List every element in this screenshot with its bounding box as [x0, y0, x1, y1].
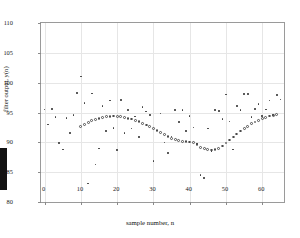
x-tick-label: 0: [42, 185, 45, 192]
gridline-horizontal: [41, 113, 284, 114]
data-point-circle: [196, 143, 199, 146]
data-point-dot: [280, 99, 282, 101]
data-point-dot: [265, 109, 267, 111]
data-point-dot: [222, 118, 224, 120]
x-tick: [153, 202, 154, 205]
data-point-circle: [192, 141, 195, 144]
data-point-dot: [102, 105, 104, 107]
y-tick: [38, 23, 41, 24]
x-tick: [117, 202, 118, 205]
y-tick-label: 80: [7, 198, 13, 205]
data-point-circle: [246, 125, 249, 128]
data-point-circle: [123, 116, 126, 119]
data-point-circle: [250, 122, 253, 125]
data-point-circle: [94, 118, 97, 121]
x-tick: [190, 202, 191, 205]
data-point-circle: [112, 115, 115, 118]
data-point-dot: [131, 128, 133, 130]
x-tick: [262, 202, 263, 205]
data-point-dot: [76, 92, 78, 94]
data-point-circle: [268, 115, 271, 118]
data-point-circle: [217, 147, 220, 150]
data-point-dot: [58, 142, 60, 144]
data-point-circle: [98, 117, 101, 120]
data-point-circle: [239, 130, 242, 133]
data-point-dot: [182, 109, 184, 111]
data-point-dot: [62, 149, 64, 151]
gridline-vertical: [262, 23, 263, 202]
x-axis-title: sample number, n: [0, 219, 300, 226]
data-point-circle: [156, 129, 159, 132]
x-tick-label: 10: [77, 185, 83, 192]
data-point-dot: [229, 121, 231, 123]
data-point-dot: [236, 105, 238, 107]
data-point-circle: [152, 127, 155, 130]
y-tick: [38, 142, 41, 143]
data-point-dot: [193, 127, 195, 129]
data-point-circle: [134, 119, 137, 122]
data-point-dot: [109, 100, 111, 102]
y-tick: [38, 202, 41, 203]
data-point-dot: [167, 152, 169, 154]
data-point-circle: [261, 117, 264, 120]
data-point-circle: [170, 137, 173, 140]
data-point-dot: [69, 132, 71, 134]
data-point-circle: [228, 139, 231, 142]
data-point-circle: [90, 119, 93, 122]
data-point-circle: [138, 120, 141, 123]
data-point-circle: [79, 125, 82, 128]
gridline-horizontal: [41, 53, 284, 54]
data-point-dot: [47, 124, 49, 126]
x-tick-label: 50: [222, 185, 228, 192]
data-point-circle: [127, 117, 130, 120]
y-tick-label: 100: [3, 78, 13, 85]
data-point-dot: [269, 100, 271, 102]
data-point-circle: [163, 133, 166, 136]
data-point-dot: [66, 117, 68, 119]
data-point-dot: [120, 99, 122, 101]
data-point-dot: [232, 149, 234, 151]
data-point-dot: [207, 128, 209, 130]
y-tick: [38, 53, 41, 54]
y-tick-label: 110: [4, 19, 13, 26]
x-tick: [45, 202, 46, 205]
data-point-dot: [243, 93, 245, 95]
data-point-dot: [87, 183, 89, 185]
y-tick-label: 105: [3, 48, 13, 55]
data-point-circle: [199, 146, 202, 149]
data-point-dot: [149, 114, 151, 116]
data-point-circle: [174, 138, 177, 141]
data-point-dot: [116, 149, 118, 151]
y-tick: [38, 172, 41, 173]
data-point-circle: [159, 131, 162, 134]
data-point-circle: [116, 115, 119, 118]
data-point-dot: [105, 130, 107, 132]
data-point-dot: [134, 116, 136, 118]
data-point-dot: [127, 109, 129, 111]
y-tick-label: 90: [7, 138, 13, 145]
y-axis-title: filter output, y(n): [2, 66, 9, 112]
data-point-circle: [101, 116, 104, 119]
data-point-dot: [91, 93, 93, 95]
data-point-dot: [113, 127, 115, 129]
data-point-dot: [153, 160, 155, 162]
data-point-circle: [167, 135, 170, 138]
y-tick: [38, 113, 41, 114]
x-tick: [81, 202, 82, 205]
data-point-circle: [275, 113, 278, 116]
data-point-dot: [138, 136, 140, 138]
data-point-circle: [109, 115, 112, 118]
gridline-vertical: [117, 23, 118, 202]
y-tick-label: 85: [7, 168, 13, 175]
data-point-dot: [145, 111, 147, 113]
data-point-dot: [218, 110, 220, 112]
data-point-dot: [247, 93, 249, 95]
x-tick-label: 40: [185, 185, 191, 192]
data-point-circle: [203, 147, 206, 150]
figure-canvas: filter output, y(n) sample number, n 808…: [0, 0, 300, 238]
data-point-dot: [254, 108, 256, 110]
data-point-circle: [206, 148, 209, 151]
data-point-dot: [276, 94, 278, 96]
data-point-dot: [73, 114, 75, 116]
gridline-vertical: [45, 23, 46, 202]
